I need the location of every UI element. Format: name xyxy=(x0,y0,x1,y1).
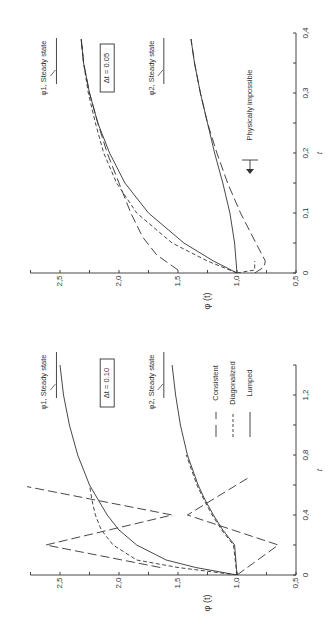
t-axis-label: t xyxy=(315,468,324,471)
series-diagonalized-1 xyxy=(90,485,238,575)
phi-tick-label: 1,0 xyxy=(232,577,241,589)
phi-tick-label: 1,5 xyxy=(173,577,182,589)
delta-t-label: Δt = 0.10 xyxy=(102,368,111,398)
t-tick-label: 0,1 xyxy=(301,207,310,219)
series-consistent-2 xyxy=(191,39,265,273)
phi-tick-label: 2,0 xyxy=(114,577,123,589)
series-lumped-2 xyxy=(191,39,237,273)
phi-tick-label: 2,5 xyxy=(55,577,64,589)
t-tick-label: 0 xyxy=(301,572,310,577)
phi1-steady-state-label: φ1, Steady state xyxy=(39,355,48,410)
phi-axis-label: φ (t) xyxy=(202,595,212,612)
series-diagonalized-2 xyxy=(237,261,255,273)
phi2-steady-state-label: φ2, Steady state xyxy=(147,41,156,96)
phi-tick-label: 0,5 xyxy=(291,577,300,589)
t-tick-label: 0,3 xyxy=(301,87,310,99)
bottom-chart-dt-0.10: 0,51,01,52,02,500,40,81,2tφ (t)φ1, Stead… xyxy=(19,352,324,611)
legend-label-diagonalized: Diagonalized xyxy=(228,361,237,404)
t-axis-label: t xyxy=(315,151,324,154)
t-tick-label: 0,2 xyxy=(301,147,310,159)
t-tick-label: 0 xyxy=(301,270,310,275)
phi-tick-label: 1,0 xyxy=(232,275,241,287)
phi-tick-label: 2,0 xyxy=(114,275,123,287)
t-tick-label: 0,4 xyxy=(301,27,310,39)
series-consistent-1 xyxy=(19,485,172,568)
figure: 0,51,01,52,02,500,10,20,30,4tφ (t)φ1, St… xyxy=(0,0,336,635)
phi1-steady-state-label: φ1, Steady state xyxy=(39,41,48,96)
top-chart-dt-0.05: 0,51,01,52,02,500,10,20,30,4tφ (t)φ1, St… xyxy=(31,27,325,310)
phi-tick-label: 0,5 xyxy=(291,275,300,287)
phi-tick-label: 2,5 xyxy=(55,275,64,287)
phi-axis-label: φ (t) xyxy=(202,293,212,310)
t-tick-label: 0,4 xyxy=(301,509,310,521)
legend-label-consistent: Consistent xyxy=(211,364,220,400)
t-tick-label: 1,2 xyxy=(301,389,310,401)
t-tick-label: 0,8 xyxy=(301,449,310,461)
phi2-steady-state-label: φ2, Steady state xyxy=(147,355,156,410)
physically-impossible-label: Physically impossible xyxy=(245,70,254,141)
phi-tick-label: 1,5 xyxy=(173,275,182,287)
delta-t-label: Δt = 0.05 xyxy=(102,53,111,83)
legend-label-lumped: Lumped xyxy=(245,369,254,396)
